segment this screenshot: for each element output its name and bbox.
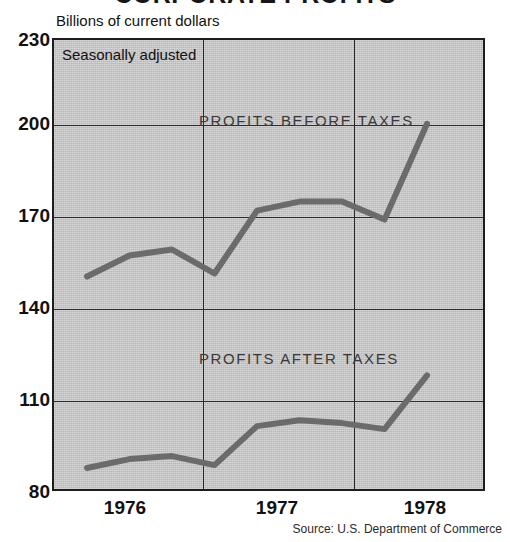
series-lines [54,40,483,489]
page-title: CORPORATE PROFITS [0,0,510,9]
x-tick-label: 1978 [390,497,460,519]
y-tick-label: 200 [4,114,50,133]
y-axis-ticks: 230 200 170 140 110 80 [0,0,50,542]
source-note: Source: U.S. Department of Commerce [293,522,502,536]
y-tick-label: 170 [4,206,50,225]
chart-root: CORPORATE PROFITS Billions of current do… [0,0,510,542]
plot-area: Seasonally adjusted PROFITS BEFORE TAXES… [52,38,485,491]
line-profits-before-taxes [87,124,427,277]
line-profits-after-taxes [87,375,427,468]
y-axis-caption: Billions of current dollars [56,12,219,29]
y-tick-label: 140 [4,298,50,317]
x-tick-label: 1977 [242,497,312,519]
y-tick-label: 230 [4,30,50,49]
x-tick-label: 1976 [90,497,160,519]
y-tick-label: 110 [4,390,50,409]
y-tick-label: 80 [4,482,50,501]
